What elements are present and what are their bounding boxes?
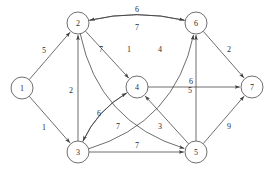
node-2[interactable]: 2 <box>67 12 89 34</box>
edge-weight-3-5: 7 <box>135 141 139 150</box>
node-7[interactable]: 7 <box>241 76 263 98</box>
edge-weight-6-2: 7 <box>135 23 139 32</box>
edge-5-to-7 <box>204 96 244 143</box>
edge-4-to-3 <box>83 93 127 141</box>
node-label-7: 7 <box>250 83 254 92</box>
edge-weight-2-4: 7 <box>99 45 103 54</box>
edge-weight-3-6: 4 <box>158 45 162 54</box>
node-6[interactable]: 6 <box>185 12 207 34</box>
node-4[interactable]: 4 <box>126 76 148 98</box>
edge-6-to-2 <box>90 15 185 21</box>
node-label-1: 1 <box>20 84 24 93</box>
edge-weight-5-4: 3 <box>158 122 162 131</box>
graph-canvas: 5126771467736529 1234567 <box>0 0 275 171</box>
node-label-4: 4 <box>135 83 139 92</box>
node-label-5: 5 <box>194 148 198 157</box>
edge-weight-4-3: 7 <box>116 122 120 131</box>
edge-1-to-2 <box>30 32 70 79</box>
edge-weight-3-4: 6 <box>97 109 101 118</box>
node-3[interactable]: 3 <box>67 141 89 163</box>
edge-3-to-4 <box>83 93 126 141</box>
edge-weight-5-7: 9 <box>227 122 231 131</box>
edge-weight-1-3: 1 <box>42 123 46 132</box>
edge-6-to-7 <box>204 32 244 78</box>
edge-weight-6-7: 2 <box>227 45 231 54</box>
node-label-3: 3 <box>76 148 80 157</box>
node-5[interactable]: 5 <box>185 141 207 163</box>
node-label-6: 6 <box>194 19 198 28</box>
graph-figure: 5126771467736529 1234567 <box>0 0 275 171</box>
edge-weight-4-7: 6 <box>189 77 193 86</box>
edge-1-to-3 <box>30 97 70 143</box>
edge-weight-1-2: 5 <box>42 46 46 55</box>
edge-weight-5-6: 5 <box>188 86 192 95</box>
edge-weight-2-5: 1 <box>127 45 131 54</box>
node-label-2: 2 <box>76 19 80 28</box>
edge-weight-3-2: 2 <box>69 86 73 95</box>
edge-5-to-4 <box>145 96 188 143</box>
node-1[interactable]: 1 <box>11 77 33 99</box>
edge-weight-2-6: 6 <box>135 5 139 14</box>
